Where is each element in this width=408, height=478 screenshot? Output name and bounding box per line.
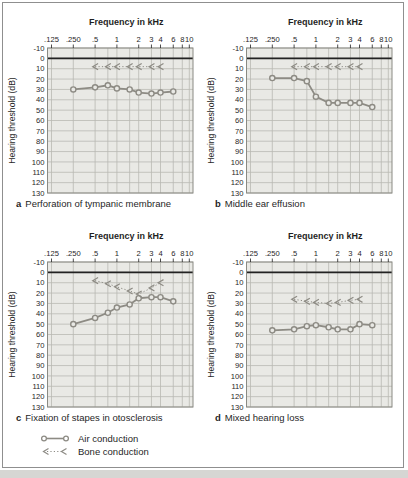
svg-text:120: 120 bbox=[32, 392, 45, 401]
svg-text:2: 2 bbox=[336, 249, 340, 258]
svg-text:90: 90 bbox=[36, 361, 44, 370]
svg-text:110: 110 bbox=[32, 168, 44, 177]
svg-text:110: 110 bbox=[231, 382, 243, 391]
svg-text:50: 50 bbox=[235, 106, 243, 115]
svg-text:100: 100 bbox=[231, 372, 244, 381]
svg-text:70: 70 bbox=[36, 341, 44, 350]
page: .125.250.512346810-100102030405060708090… bbox=[0, 0, 408, 478]
panel-caption-a: aPerforation of tympanic membrane bbox=[16, 198, 204, 209]
legend-label-air-conduction: Air conduction bbox=[78, 433, 138, 444]
svg-text:80: 80 bbox=[235, 137, 243, 146]
svg-text:.5: .5 bbox=[92, 35, 98, 44]
svg-text:100: 100 bbox=[231, 158, 244, 167]
svg-text:Hearing threshold (dB): Hearing threshold (dB) bbox=[206, 291, 216, 378]
svg-text:30: 30 bbox=[36, 299, 44, 308]
svg-text:110: 110 bbox=[32, 382, 44, 391]
svg-text:3: 3 bbox=[348, 35, 352, 44]
svg-text:20: 20 bbox=[36, 75, 44, 84]
panel-caption-c: cFixation of stapes in otosclerosis bbox=[16, 412, 204, 423]
svg-text:100: 100 bbox=[32, 372, 45, 381]
svg-text:-10: -10 bbox=[34, 44, 45, 53]
svg-text:8: 8 bbox=[180, 249, 184, 258]
audiogram-chart-b: .125.250.512346810-100102030405060708090… bbox=[204, 5, 402, 197]
svg-text:Frequency in kHz: Frequency in kHz bbox=[288, 17, 363, 27]
svg-text:0: 0 bbox=[40, 268, 44, 277]
svg-text:2: 2 bbox=[137, 249, 141, 258]
svg-text:90: 90 bbox=[36, 147, 44, 156]
page-bottom-strip bbox=[0, 470, 408, 478]
svg-text:-10: -10 bbox=[233, 44, 244, 53]
svg-text:0: 0 bbox=[40, 54, 44, 63]
svg-text:100: 100 bbox=[32, 158, 45, 167]
svg-text:120: 120 bbox=[32, 178, 45, 187]
svg-text:Hearing threshold (dB): Hearing threshold (dB) bbox=[7, 291, 17, 378]
svg-text:50: 50 bbox=[235, 320, 243, 329]
svg-text:40: 40 bbox=[235, 309, 243, 318]
audiogram-panel-b: .125.250.512346810-100102030405060708090… bbox=[204, 5, 403, 209]
svg-text:80: 80 bbox=[235, 351, 243, 360]
svg-text:8: 8 bbox=[379, 249, 383, 258]
svg-text:Hearing threshold (dB): Hearing threshold (dB) bbox=[7, 77, 17, 164]
svg-text:10: 10 bbox=[185, 35, 193, 44]
svg-text:8: 8 bbox=[379, 35, 383, 44]
svg-text:10: 10 bbox=[235, 278, 243, 287]
svg-text:60: 60 bbox=[36, 116, 44, 125]
svg-text:20: 20 bbox=[235, 75, 243, 84]
svg-text:80: 80 bbox=[36, 351, 44, 360]
air-conduction-line-icon bbox=[39, 433, 71, 444]
svg-text:.125: .125 bbox=[243, 249, 258, 258]
audiogram-panel-d: .125.250.512346810-100102030405060708090… bbox=[204, 219, 403, 423]
svg-text:4: 4 bbox=[357, 249, 361, 258]
svg-text:110: 110 bbox=[231, 168, 243, 177]
audiogram-panel-c: .125.250.512346810-100102030405060708090… bbox=[5, 219, 204, 423]
svg-text:90: 90 bbox=[235, 147, 243, 156]
svg-text:1: 1 bbox=[115, 249, 119, 258]
panel-caption-d: dMixed hearing loss bbox=[215, 412, 403, 423]
legend: Air conduction Bone conduction bbox=[39, 432, 403, 458]
audiogram-panel-a: .125.250.512346810-100102030405060708090… bbox=[5, 5, 204, 209]
svg-text:.250: .250 bbox=[265, 35, 280, 44]
audiogram-chart-c: .125.250.512346810-100102030405060708090… bbox=[5, 219, 203, 411]
svg-text:90: 90 bbox=[235, 361, 243, 370]
svg-text:40: 40 bbox=[36, 95, 44, 104]
svg-text:30: 30 bbox=[235, 299, 243, 308]
svg-text:10: 10 bbox=[36, 278, 44, 287]
svg-text:1: 1 bbox=[314, 249, 318, 258]
svg-text:80: 80 bbox=[36, 137, 44, 146]
svg-text:70: 70 bbox=[36, 127, 44, 136]
legend-item-air-conduction: Air conduction bbox=[39, 432, 403, 445]
svg-text:60: 60 bbox=[235, 330, 243, 339]
svg-text:130: 130 bbox=[32, 189, 45, 197]
svg-text:2: 2 bbox=[137, 35, 141, 44]
svg-text:20: 20 bbox=[235, 289, 243, 298]
svg-text:40: 40 bbox=[36, 309, 44, 318]
svg-text:50: 50 bbox=[36, 320, 44, 329]
panel-caption-text-d: Mixed hearing loss bbox=[225, 412, 304, 423]
legend-label-bone-conduction: Bone conduction bbox=[78, 446, 149, 457]
svg-text:6: 6 bbox=[171, 249, 175, 258]
svg-text:0: 0 bbox=[239, 268, 243, 277]
svg-text:3: 3 bbox=[348, 249, 352, 258]
panel-caption-text-a: Perforation of tympanic membrane bbox=[25, 198, 171, 209]
svg-text:-10: -10 bbox=[34, 258, 45, 267]
panel-caption-text-c: Fixation of stapes in otosclerosis bbox=[25, 412, 162, 423]
svg-text:10: 10 bbox=[384, 35, 392, 44]
svg-text:3: 3 bbox=[149, 35, 153, 44]
panel-caption-b: bMiddle ear effusion bbox=[215, 198, 403, 209]
svg-text:1: 1 bbox=[115, 35, 119, 44]
svg-text:3: 3 bbox=[149, 249, 153, 258]
panel-letter-c: c bbox=[16, 412, 21, 423]
panel-letter-b: b bbox=[215, 198, 221, 209]
svg-text:-10: -10 bbox=[233, 258, 244, 267]
svg-text:10: 10 bbox=[235, 64, 243, 73]
svg-text:Frequency in kHz: Frequency in kHz bbox=[288, 231, 363, 241]
svg-text:120: 120 bbox=[231, 392, 244, 401]
svg-text:60: 60 bbox=[235, 116, 243, 125]
figure-frame: .125.250.512346810-100102030405060708090… bbox=[2, 2, 404, 468]
svg-text:20: 20 bbox=[36, 289, 44, 298]
audiogram-chart-a: .125.250.512346810-100102030405060708090… bbox=[5, 5, 203, 197]
svg-text:10: 10 bbox=[384, 249, 392, 258]
svg-text:0: 0 bbox=[239, 54, 243, 63]
svg-text:50: 50 bbox=[36, 106, 44, 115]
svg-text:6: 6 bbox=[370, 249, 374, 258]
